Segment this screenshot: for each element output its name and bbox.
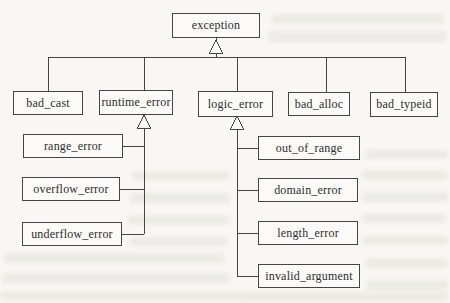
node-bad-typeid: bad_typeid [370, 92, 438, 117]
node-length-error: length_error [258, 221, 358, 245]
node-out-of-range: out_of_range [258, 136, 360, 160]
node-exception: exception [172, 13, 260, 38]
node-underflow-error: underflow_error [22, 222, 122, 246]
node-domain-error-label: domain_error [274, 183, 342, 198]
node-underflow-error-label: underflow_error [31, 227, 113, 242]
node-runtime-error-label: runtime_error [101, 95, 170, 110]
node-logic-error: logic_error [198, 91, 273, 117]
inheritance-arrow-logic-error-icon [231, 116, 244, 129]
node-exception-label: exception [192, 18, 240, 33]
node-bad-typeid-label: bad_typeid [376, 97, 431, 112]
node-invalid-argument-label: invalid_argument [265, 269, 353, 284]
node-range-error-label: range_error [44, 139, 102, 154]
node-invalid-argument: invalid_argument [258, 264, 360, 288]
node-bad-cast: bad_cast [13, 91, 83, 115]
node-range-error: range_error [23, 134, 123, 158]
node-bad-alloc: bad_alloc [288, 92, 350, 116]
node-bad-alloc-label: bad_alloc [295, 97, 343, 112]
inheritance-arrow-exception-icon [210, 40, 223, 53]
node-logic-error-label: logic_error [208, 97, 264, 112]
node-bad-cast-label: bad_cast [26, 96, 70, 111]
node-domain-error: domain_error [258, 178, 358, 202]
scanned-book-page: exception bad_cast runtime_error logic_e… [0, 0, 450, 303]
node-overflow-error-label: overflow_error [33, 182, 108, 197]
inheritance-arrow-runtime-error-icon [138, 115, 151, 128]
node-length-error-label: length_error [277, 226, 339, 241]
node-runtime-error: runtime_error [99, 90, 173, 115]
node-out-of-range-label: out_of_range [276, 141, 342, 156]
node-overflow-error: overflow_error [22, 177, 120, 201]
